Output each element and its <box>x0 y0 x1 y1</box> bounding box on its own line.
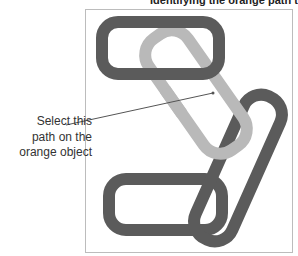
callout-line-1: Select this <box>0 114 92 130</box>
diagram-root: Identifying the orange path to select Se… <box>0 0 298 256</box>
callout-label: Select this path on the orange object <box>0 114 92 161</box>
callout-line-2: path on the <box>0 130 92 146</box>
callout-line-3: orange object <box>0 145 92 161</box>
leader-endpoint <box>212 92 215 95</box>
